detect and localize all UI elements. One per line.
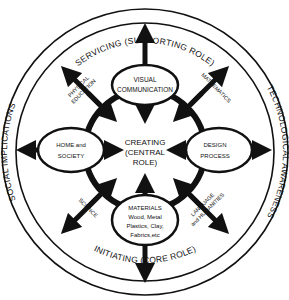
- svg-text:SOCIETY: SOCIETY: [58, 153, 84, 159]
- center-label: CREATING (CENTRAL ROLE): [125, 138, 166, 167]
- svg-text:DESIGN: DESIGN: [203, 142, 226, 148]
- svg-text:MATERIALS: MATERIALS: [128, 205, 162, 211]
- svg-text:VISUAL: VISUAL: [133, 76, 157, 83]
- svg-text:PROCESS: PROCESS: [200, 153, 229, 159]
- node-home-and-society: HOME and SOCIETY: [38, 128, 104, 172]
- creating-central-role-diagram: SERVICING (SUPPORTING ROLE) INITIATING (…: [0, 0, 289, 300]
- svg-text:(CENTRAL: (CENTRAL: [125, 148, 166, 157]
- svg-text:HOME and: HOME and: [56, 142, 86, 148]
- svg-text:CREATING: CREATING: [125, 138, 166, 147]
- node-visual-communication: VISUAL COMMUNICATION: [112, 65, 178, 105]
- node-design-process: DESIGN PROCESS: [186, 128, 252, 172]
- svg-text:Wood, Metal: Wood, Metal: [128, 214, 162, 220]
- svg-text:ROLE): ROLE): [133, 158, 158, 167]
- node-materials: MATERIALS Wood, Metal Plastics, Clay, Fa…: [112, 195, 178, 245]
- svg-text:COMMUNICATION: COMMUNICATION: [117, 86, 173, 93]
- svg-text:Plastics, Clay,: Plastics, Clay,: [126, 223, 164, 229]
- ring-label-left: SOCIAL IMPLICATIONS: [0, 101, 18, 203]
- svg-text:Fabrics,etc: Fabrics,etc: [130, 232, 159, 238]
- ring-label-right: TECHNOLOGICAL AWARENESS: [265, 83, 289, 220]
